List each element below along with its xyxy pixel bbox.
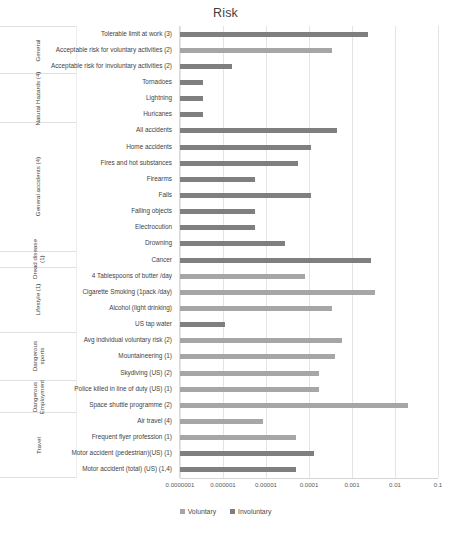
bar xyxy=(180,322,225,327)
category-label: Skydiving (US) (2) xyxy=(120,370,172,376)
bar xyxy=(180,435,296,440)
gridline-6 xyxy=(438,26,439,478)
category-label: US tap water xyxy=(135,321,172,327)
x-tick-label: 0.001 xyxy=(344,481,359,488)
bar xyxy=(180,161,298,166)
bar xyxy=(180,32,368,37)
risk-chart: Risk GeneralNatural Hazards (4)General a… xyxy=(0,0,451,535)
category-label: Space shuttle programme (2) xyxy=(89,402,172,408)
bar xyxy=(180,112,203,117)
bar xyxy=(180,145,311,150)
legend-item[interactable]: Involuntary xyxy=(230,508,271,515)
bar xyxy=(180,80,203,85)
bar xyxy=(180,371,319,376)
gridline-5 xyxy=(395,26,396,478)
category-axis-labels: Tolerable limit at work (3)Acceptable ri… xyxy=(0,26,178,478)
plot-area xyxy=(180,26,438,478)
x-tick-label: 0.000001 xyxy=(210,481,235,488)
bar xyxy=(180,354,335,359)
bar xyxy=(180,306,332,311)
category-label: Electrocution xyxy=(135,224,172,230)
x-axis-line xyxy=(180,478,438,479)
x-tick-label: 0.0000001 xyxy=(166,481,195,488)
bar xyxy=(180,128,337,133)
bar xyxy=(180,274,305,279)
category-label: Lightning xyxy=(146,95,172,101)
category-label: Alcohol (light drinking) xyxy=(109,305,172,311)
x-tick-label: 0.1 xyxy=(434,481,442,488)
bar xyxy=(180,403,408,408)
category-label: Cancer xyxy=(151,257,172,263)
x-tick-label: 0.01 xyxy=(389,481,401,488)
gridline-4 xyxy=(352,26,353,478)
category-label: Falling objects xyxy=(131,208,172,214)
x-tick-label: 0.00001 xyxy=(255,481,277,488)
category-label: Huricanes xyxy=(143,111,172,117)
category-label: Avg individual voluntary risk (2) xyxy=(84,337,172,343)
category-label: Tolerable limit at work (3) xyxy=(101,31,172,37)
bar xyxy=(180,451,314,456)
category-label: Frequent flyer profession (1) xyxy=(92,434,172,440)
category-label: Fires and hot substances xyxy=(101,160,172,166)
gridline-2 xyxy=(266,26,267,478)
gridline-1 xyxy=(223,26,224,478)
category-label: Acceptable risk for involuntary activiti… xyxy=(51,63,172,69)
category-label: Motor accident (total) (US) (1,4) xyxy=(82,466,172,472)
category-label: Police killed in line of duty (US) (1) xyxy=(74,386,172,392)
category-label: Falls xyxy=(159,192,173,198)
bar xyxy=(180,96,203,101)
bar xyxy=(180,241,285,246)
bar xyxy=(180,48,332,53)
bar xyxy=(180,290,375,295)
bar xyxy=(180,258,371,263)
bar xyxy=(180,338,342,343)
bar xyxy=(180,209,255,214)
gridline-0 xyxy=(180,26,181,478)
bar xyxy=(180,225,255,230)
category-label: All accidents xyxy=(136,127,172,133)
category-label: Firearms xyxy=(147,176,172,182)
bar xyxy=(180,419,263,424)
chart-legend: VoluntaryInvoluntary xyxy=(0,508,451,515)
bar xyxy=(180,177,255,182)
chart-title: Risk xyxy=(0,6,451,20)
bar xyxy=(180,193,311,198)
category-label: Home accidents xyxy=(126,144,172,150)
legend-label: Involuntary xyxy=(238,508,271,515)
category-label: Drowning xyxy=(145,240,172,246)
category-label: Tornadoes xyxy=(142,79,172,85)
x-tick-label: 0.0001 xyxy=(300,481,319,488)
bar xyxy=(180,467,296,472)
legend-label: Voluntary xyxy=(188,508,216,515)
legend-swatch-icon xyxy=(180,509,185,514)
category-label: 4 Tablespoons of butter /day xyxy=(92,273,172,279)
legend-swatch-icon xyxy=(230,509,235,514)
category-label: Mountaineering (1) xyxy=(118,353,172,359)
legend-item[interactable]: Voluntary xyxy=(180,508,216,515)
category-label: Motor accident (pedestrian)(US) (1) xyxy=(71,450,172,456)
category-label: Acceptable risk for voluntary activities… xyxy=(56,47,172,53)
category-label: Cigarette Smoking (1pack /day) xyxy=(82,289,172,295)
bar xyxy=(180,387,319,392)
gridline-3 xyxy=(309,26,310,478)
category-label: Air travel (4) xyxy=(137,418,172,424)
x-axis-tick-labels: 0.00000010.0000010.000010.00010.0010.010… xyxy=(0,481,451,495)
bar xyxy=(180,64,232,69)
